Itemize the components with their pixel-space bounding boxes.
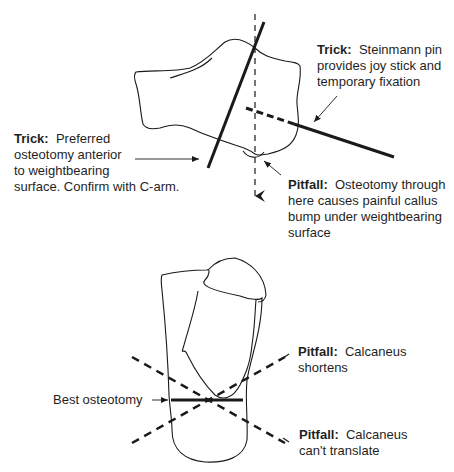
- label-pitfall-callus: Pitfall: Osteotomy through here causes p…: [288, 177, 446, 241]
- arrow-shortens: [283, 354, 289, 358]
- arrow-pin: [314, 96, 337, 122]
- label-best-osteotomy: Best osteotomy: [53, 392, 143, 408]
- steinmann-pin-inside: [246, 108, 294, 124]
- bottom-bone-outline: [161, 258, 266, 462]
- steinmann-pin-outside: [294, 124, 394, 157]
- label-pitfall-shortens: Pitfall: Calcaneus shortens: [298, 344, 406, 376]
- arrow-callus: [264, 161, 281, 175]
- label-heading: Trick:: [317, 42, 352, 57]
- label-trick-pin: Trick: Steinmann pin provides joy stick …: [317, 42, 442, 90]
- label-trick-osteotomy: Trick: Preferred osteotomy anterior to w…: [14, 131, 179, 195]
- label-pitfall-translate: Pitfall: Calcaneus can't translate: [299, 427, 407, 459]
